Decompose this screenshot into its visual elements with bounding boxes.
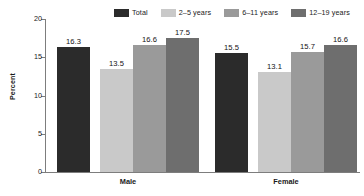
bar-value-label: 17.5 — [175, 29, 190, 37]
bar: 16.6 — [324, 45, 357, 172]
legend-item-label: 12–19 years — [309, 9, 350, 17]
x-axis-line — [45, 172, 360, 173]
bar: 16.6 — [133, 45, 166, 172]
bar-value-label: 16.6 — [333, 36, 348, 44]
chart-legend: Total 2–5 years 6–11 years 12–19 years — [114, 6, 350, 19]
bar: 16.3 — [57, 47, 90, 172]
legend-swatch-icon — [224, 9, 239, 17]
bar: 15.7 — [291, 52, 324, 172]
y-axis-tick-label: 0 — [38, 168, 42, 175]
x-axis-category-label: Female — [273, 178, 298, 185]
bar-value-label: 16.3 — [66, 38, 81, 46]
bar: 17.5 — [166, 38, 199, 172]
legend-item-total: Total — [114, 6, 148, 19]
legend-swatch-icon — [291, 9, 306, 17]
legend-item-label: 2–5 years — [179, 9, 211, 17]
legend-item-6-11-years: 6–11 years — [224, 6, 278, 19]
y-axis-title-text: Percent — [10, 72, 17, 99]
bar-value-label: 15.5 — [224, 44, 239, 52]
y-axis-title: Percent — [6, 0, 20, 172]
y-axis-tick-label: 15 — [34, 54, 42, 61]
y-axis-tick-label: 10 — [34, 92, 42, 99]
bar: 13.5 — [100, 69, 133, 172]
legend-swatch-icon — [161, 9, 176, 17]
bar-value-label: 13.5 — [109, 60, 124, 68]
legend-swatch-icon — [114, 9, 129, 17]
legend-item-2-5-years: 2–5 years — [161, 6, 211, 19]
bar: 13.1 — [258, 72, 291, 172]
bar-value-label: 16.6 — [142, 36, 157, 44]
x-axis-category-label: Male — [120, 178, 136, 185]
bar-value-label: 13.1 — [267, 63, 282, 71]
bar: 15.5 — [215, 53, 248, 172]
legend-item-label: Total — [132, 9, 148, 17]
plot-area: 05101520 16.313.516.617.515.513.115.716.… — [45, 19, 360, 172]
y-axis-tick-label: 20 — [34, 15, 42, 22]
bar-chart: Total 2–5 years 6–11 years 12–19 years P… — [0, 0, 364, 196]
legend-item-12-19-years: 12–19 years — [291, 6, 350, 19]
legend-item-label: 6–11 years — [242, 9, 278, 17]
bar-value-label: 15.7 — [300, 43, 315, 51]
y-axis-tick-label: 5 — [38, 130, 42, 137]
